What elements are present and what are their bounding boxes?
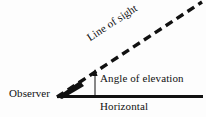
observer-label: Observer <box>9 88 50 99</box>
horizontal-label: Horizontal <box>100 101 148 112</box>
angle-of-elevation-diagram: Observer Line of sight Angle of elevatio… <box>0 0 206 117</box>
angle-of-elevation-label: Angle of elevation <box>100 73 184 84</box>
